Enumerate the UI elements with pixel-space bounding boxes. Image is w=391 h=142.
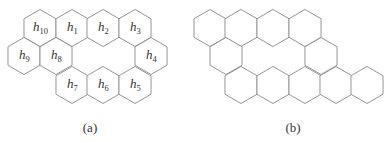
caption-a: (a) <box>83 120 97 135</box>
hexagon <box>351 67 383 104</box>
hexagon-diagram: h10h1h2h3h9h8h4h7h6h5 (a) (b) <box>0 0 391 142</box>
hexagon <box>257 67 289 104</box>
caption-b: (b) <box>285 120 300 135</box>
panel-b-hexagon-strip <box>194 10 383 104</box>
hexagon <box>257 10 289 47</box>
panel-a-hexagon-ring: h10h1h2h3h9h8h4h7h6h5 <box>8 10 167 104</box>
